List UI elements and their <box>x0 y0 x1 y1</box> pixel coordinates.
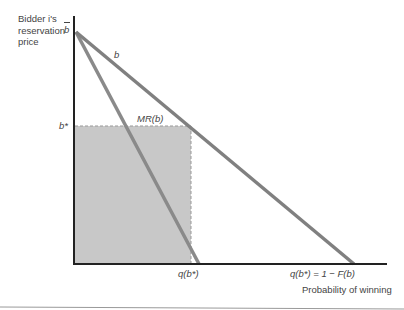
bottom-rule <box>0 307 404 309</box>
b-bar-label: b <box>64 24 69 36</box>
b-bar-text: b <box>64 24 69 35</box>
mr-line-label: MR(b) <box>137 113 163 125</box>
q-b-star-label: q(b*) <box>178 268 199 280</box>
b-line-label: b <box>114 49 119 61</box>
b-star-label: b* <box>59 120 68 132</box>
q-full-label: q(b*) = 1 − F(b) <box>290 268 355 280</box>
overbar <box>64 22 70 23</box>
x-axis-label: Probability of winning <box>302 284 392 296</box>
revenue-shaded-area <box>75 126 191 264</box>
